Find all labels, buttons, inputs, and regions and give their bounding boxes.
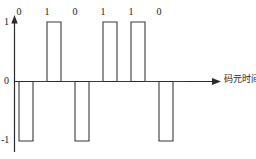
bit-label-4: 1 [125, 7, 137, 17]
bit-label-5: 0 [153, 7, 165, 17]
y-tick-label-zero: 0 [4, 76, 9, 86]
axes-group [11, 15, 221, 152]
x-axis-arrow-icon [212, 78, 221, 85]
y-tick-label-negative-one: -1 [1, 135, 9, 145]
bit-label-1: 1 [41, 7, 53, 17]
x-axis-title: 码元时间 [224, 75, 256, 84]
bit-label-0: 0 [13, 7, 25, 17]
y-tick-label-positive-one: 1 [4, 17, 9, 27]
bit-label-2: 0 [69, 7, 81, 17]
waveform-figure: 1 0 -1 码元时间 010110 [0, 0, 256, 159]
waveform-plot [0, 0, 256, 159]
bit-label-3: 1 [97, 7, 109, 17]
